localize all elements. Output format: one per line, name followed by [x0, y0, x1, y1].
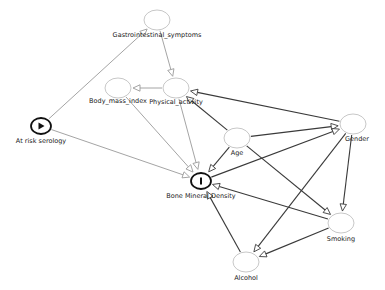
edge-line [266, 228, 329, 254]
edges-layer [49, 29, 352, 257]
arrowhead-icon [212, 183, 220, 189]
edge-line [251, 127, 331, 137]
edge-gender-to-pa[interactable] [191, 89, 340, 121]
node-label-gender: Gender [345, 136, 369, 143]
node-ellipse [163, 78, 189, 98]
edge-ars-to-gi[interactable] [49, 29, 147, 119]
edge-line [210, 198, 240, 252]
node-ellipse [233, 252, 259, 272]
edge-bmi-to-bmd[interactable] [126, 97, 193, 172]
node-gender[interactable] [340, 114, 366, 134]
edge-pa-to-bmi[interactable] [133, 85, 162, 91]
node-ellipse [340, 114, 366, 134]
edge-ars-to-bmd[interactable] [51, 130, 189, 178]
edge-line [179, 99, 196, 163]
arrowhead-icon [340, 204, 346, 211]
node-label-ars: At risk serology [16, 138, 66, 145]
arrowhead-icon [332, 129, 340, 135]
node-ellipse [144, 10, 170, 30]
edge-smoking-to-alcohol[interactable] [259, 228, 328, 257]
arrowhead-icon [182, 172, 190, 178]
edge-age-to-smoking[interactable] [247, 146, 331, 215]
edge-line [126, 97, 188, 167]
node-smoking[interactable] [328, 213, 354, 233]
arrowhead-icon [193, 162, 199, 170]
edge-line [51, 130, 183, 175]
node-bmi[interactable] [105, 78, 131, 98]
node-label-gi: Gastrointestinal_symptoms [113, 32, 202, 39]
arrowhead-icon [168, 69, 174, 77]
node-gi[interactable] [144, 10, 170, 30]
node-age[interactable] [224, 128, 250, 148]
node-bmd[interactable] [191, 173, 211, 189]
node-alcohol[interactable] [233, 252, 259, 272]
arrowhead-icon [133, 85, 140, 91]
edge-pa-to-bmd[interactable] [179, 99, 199, 170]
edge-line [343, 135, 351, 204]
edge-line [219, 186, 328, 219]
dag-canvas [0, 0, 385, 290]
edge-smoking-to-bmd[interactable] [212, 183, 327, 219]
node-ellipse [328, 213, 354, 233]
arrowhead-icon [191, 89, 198, 95]
node-ars[interactable] [31, 118, 51, 134]
nodes-layer [31, 10, 366, 272]
arrowhead-icon [259, 251, 267, 257]
edge-line [49, 34, 142, 119]
edge-age-to-bmd[interactable] [209, 147, 230, 172]
edge-line [213, 147, 229, 166]
bar-I-icon [200, 178, 202, 185]
edge-line [197, 92, 339, 121]
arrowhead-icon [254, 244, 261, 251]
edge-line [247, 146, 325, 210]
node-ellipse [105, 78, 131, 98]
node-ellipse [224, 128, 250, 148]
node-label-pa: Physical_activity [149, 99, 203, 106]
node-label-bmi: Body_mass_index [89, 98, 147, 105]
node-pa[interactable] [163, 78, 189, 98]
node-label-smoking: Smoking [327, 236, 355, 243]
node-label-bmd: Bone Mineral Density [166, 193, 235, 200]
node-label-age: Age [231, 150, 244, 157]
node-label-alcohol: Alcohol [234, 275, 258, 282]
edge-alcohol-to-bmd[interactable] [207, 191, 241, 251]
edge-gender-to-smoking[interactable] [340, 135, 352, 211]
